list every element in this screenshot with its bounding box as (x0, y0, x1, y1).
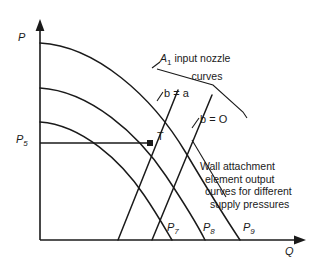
nozzle-annotation-leader-left (152, 62, 160, 68)
output-curve-p8 (40, 88, 205, 240)
operating-point-t-marker (147, 140, 153, 146)
output-annotation-line3: curves for different (200, 185, 292, 198)
output-annotation: Wall attachment element output curves fo… (200, 160, 292, 210)
output-curve-p7 (40, 122, 172, 240)
label-p8: P8 (203, 222, 215, 238)
operating-point-t-label: T (157, 131, 164, 143)
label-b-equals-zero: b = O (200, 114, 227, 126)
b-equals-a-leader (157, 92, 163, 101)
x-axis-arrowhead (294, 236, 306, 245)
nozzle-line-b-equals-a (118, 90, 178, 240)
label-p7: P7 (167, 222, 179, 238)
nozzle-annotation-text: input nozzle (171, 52, 230, 64)
x-axis-label: Q (285, 246, 294, 258)
p8-subscript: 8 (210, 227, 214, 236)
output-annotation-line2: element output (200, 173, 292, 186)
output-annotation-line1: Wall attachment (200, 160, 292, 173)
nozzle-annotation-line1: A1 input nozzle (160, 52, 230, 70)
nozzle-annotation-line2: curves (160, 70, 230, 83)
y-axis-label: P (18, 32, 25, 44)
p7-subscript: 7 (174, 227, 178, 236)
output-annotation-line4: supply pressures (200, 198, 292, 211)
p5-tick-subscript: 5 (23, 139, 27, 148)
p9-subscript: 9 (250, 227, 254, 236)
y-axis-arrowhead (36, 19, 45, 31)
nozzle-annotation: A1 input nozzle curves (160, 52, 230, 82)
label-p9: P9 (243, 222, 255, 238)
diagram-canvas: P P5 Q T b = a b = O P7 P8 P9 A1 input n… (0, 0, 322, 280)
p5-tick-label: P5 (16, 134, 28, 150)
nozzle-symbol: A (160, 52, 167, 64)
b-equals-zero-leader (192, 118, 199, 128)
label-b-equals-a: b = a (164, 88, 189, 100)
